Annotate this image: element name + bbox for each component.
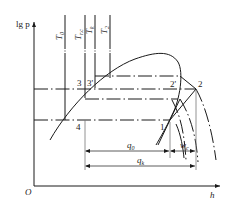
dimension-arrows: q0 qk wc xyxy=(86,140,195,166)
point-1: 1 xyxy=(160,122,165,132)
point-3: 3 xyxy=(77,78,82,88)
point-2prime: 2' xyxy=(170,79,177,89)
point-3prime: 3' xyxy=(87,78,94,88)
x-axis-label: h xyxy=(210,190,215,200)
axes: lg p h O xyxy=(16,19,220,200)
lgp-h-diagram: lg p h O T0 Tr.c Tk T2 xyxy=(0,0,234,209)
desuperheat-2-2prime xyxy=(180,76,196,89)
label-qk: qk xyxy=(137,155,145,166)
label-tk: Tk xyxy=(84,26,95,34)
isotherm-labels: T0 Tr.c Tk T2 xyxy=(54,26,110,40)
label-trc: Tr.c xyxy=(73,29,84,40)
point-2: 2 xyxy=(198,79,203,89)
y-axis-label: lg p xyxy=(16,19,30,29)
label-q0: q0 xyxy=(127,140,135,151)
point-4: 4 xyxy=(76,122,81,132)
label-t2: T2 xyxy=(99,26,110,34)
label-t0: T0 xyxy=(54,32,65,40)
label-wc: wc xyxy=(180,140,189,151)
origin-label: O xyxy=(25,187,32,197)
